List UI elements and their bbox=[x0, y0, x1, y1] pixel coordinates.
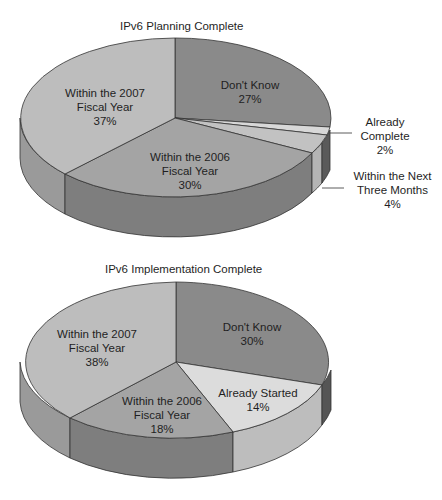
impl-label-2006: Within the 2006Fiscal Year18% bbox=[107, 394, 217, 436]
label-2007: Within the 2007Fiscal Year37% bbox=[50, 86, 160, 128]
label-three-months: Within the NextThree Months4% bbox=[345, 169, 440, 211]
label-dont-know: Don't Know27% bbox=[210, 78, 290, 106]
impl-label-already-started: Already Started14% bbox=[208, 386, 308, 414]
label-already-complete: AlreadyComplete2% bbox=[355, 115, 415, 157]
impl-label-2007: Within the 2007Fiscal Year38% bbox=[42, 327, 152, 369]
implementation-pie-graphic bbox=[0, 250, 442, 500]
implementation-pie-chart: IPv6 Implementation Complete Don't Know3… bbox=[0, 250, 442, 500]
impl-label-dont-know: Don't Know30% bbox=[212, 320, 292, 348]
chart-title: IPv6 Implementation Complete bbox=[105, 263, 262, 275]
label-2006: Within the 2006Fiscal Year30% bbox=[135, 150, 245, 192]
chart-title: IPv6 Planning Complete bbox=[120, 20, 243, 32]
planning-pie-chart: IPv6 Planning Complete Don't Know27% Alr… bbox=[0, 0, 442, 250]
